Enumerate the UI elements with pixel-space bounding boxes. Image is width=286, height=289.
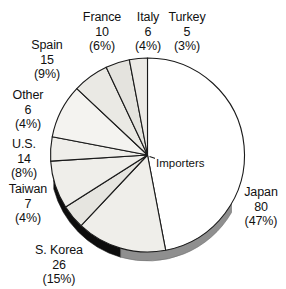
slice-label-taiwan: Taiwan 7 (4%) — [0, 182, 56, 226]
slice-label-france-name: France — [74, 10, 130, 25]
slice-label-spain-value: 15 — [18, 53, 76, 68]
slice-label-taiwan-name: Taiwan — [0, 182, 56, 197]
slice-label-italy-name: Italy — [130, 10, 166, 25]
slice-label-us: U.S. 14 (8%) — [1, 137, 47, 181]
slice-label-france: France 10 (6%) — [74, 10, 130, 54]
slice-label-other-value: 6 — [3, 103, 53, 118]
slice-label-france-value: 10 — [74, 25, 130, 40]
slice-label-taiwan-value: 7 — [0, 197, 56, 212]
pie-slice-japan — [148, 58, 245, 250]
slice-label-spain: Spain 15 (9%) — [18, 38, 76, 82]
slice-label-spain-percent: (9%) — [18, 67, 76, 82]
slice-label-s-korea: S. Korea 26 (15%) — [24, 243, 94, 287]
slice-label-s-korea-name: S. Korea — [24, 243, 94, 258]
slice-label-taiwan-percent: (4%) — [0, 211, 56, 226]
slice-label-other: Other 6 (4%) — [3, 88, 53, 132]
slice-label-other-name: Other — [3, 88, 53, 103]
slice-label-s-korea-value: 26 — [24, 258, 94, 273]
slice-label-turkey: Turkey 5 (3%) — [163, 10, 211, 54]
slice-label-us-name: U.S. — [1, 137, 47, 152]
slice-label-us-percent: (8%) — [1, 166, 47, 181]
pie-chart-figure: France 10 (6%) Italy 6 (4%) Turkey 5 (3%… — [0, 0, 286, 289]
slice-label-turkey-percent: (3%) — [163, 39, 211, 54]
slice-label-spain-name: Spain — [18, 38, 76, 53]
slice-label-japan-name: Japan — [236, 185, 286, 200]
slice-label-japan-percent: (47%) — [236, 214, 286, 229]
slice-label-italy-percent: (4%) — [130, 39, 166, 54]
slice-label-other-percent: (4%) — [3, 117, 53, 132]
slice-label-italy: Italy 6 (4%) — [130, 10, 166, 54]
pie-slices — [50, 58, 244, 252]
slice-label-japan: Japan 80 (47%) — [236, 185, 286, 229]
slice-label-s-korea-percent: (15%) — [24, 272, 94, 287]
slice-label-france-percent: (6%) — [74, 39, 130, 54]
slice-label-turkey-name: Turkey — [163, 10, 211, 25]
center-annotation-importers: Importers — [155, 157, 206, 170]
slice-label-us-value: 14 — [1, 152, 47, 167]
slice-label-japan-value: 80 — [236, 200, 286, 215]
slice-label-turkey-value: 5 — [163, 25, 211, 40]
slice-label-italy-value: 6 — [130, 25, 166, 40]
